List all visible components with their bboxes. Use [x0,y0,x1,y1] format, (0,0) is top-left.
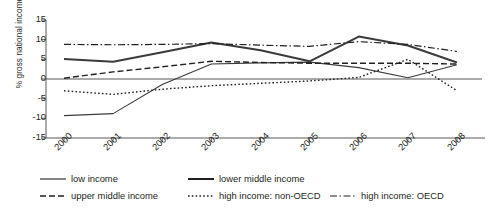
legend-label: high income: non-OECD [219,191,321,201]
legend-label: high income: OECD [361,191,444,201]
x-tick-label: 2001 [102,131,123,152]
x-tick-label: 2002 [151,131,172,152]
legend-swatch-icon [40,174,66,184]
legend-label: upper middle income [71,191,158,201]
x-tick-label: 2007 [397,131,418,152]
legend-swatch-icon [40,191,66,201]
chart-figure: % gross national income 151050-5-10-15 2… [0,0,490,214]
x-tick-label: 2005 [299,131,320,152]
legend-label: lower middle income [219,174,304,184]
x-tick-label: 2006 [348,131,369,152]
x-tick-label: 2003 [200,131,221,152]
chart-legend: low incomelower middle incomeupper middl… [40,172,470,210]
x-tick-label: 2008 [446,131,467,152]
legend-swatch-icon [330,191,356,201]
x-tick-label: 2000 [53,131,74,152]
legend-item[interactable]: lower middle income [188,174,304,184]
legend-item[interactable]: low income [40,174,118,184]
x-tick-label: 2004 [250,131,271,152]
legend-item[interactable]: upper middle income [40,191,158,201]
legend-item[interactable]: high income: OECD [330,191,444,201]
legend-swatch-icon [188,191,214,201]
legend-item[interactable]: high income: non-OECD [188,191,321,201]
legend-swatch-icon [188,174,214,184]
legend-label: low income [71,174,118,184]
